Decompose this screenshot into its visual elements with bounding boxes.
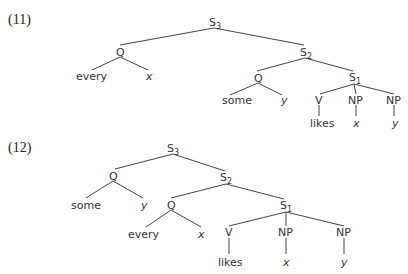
edge-q-y bbox=[113, 181, 143, 198]
leaf-every: every bbox=[76, 70, 108, 83]
example-label: (11) bbox=[8, 12, 31, 28]
node-np: NP bbox=[278, 226, 293, 239]
edge-s1-v bbox=[229, 212, 286, 226]
node-q: Q bbox=[167, 199, 176, 212]
edge-s1-v bbox=[320, 84, 354, 94]
edge-q-every bbox=[146, 210, 171, 227]
edge-s3-s2 bbox=[214, 28, 304, 45]
edge-s1-np2 bbox=[286, 212, 344, 226]
leaf-x: x bbox=[145, 70, 153, 83]
node-s1: S1 bbox=[280, 199, 292, 214]
example-label: (12) bbox=[8, 140, 32, 156]
edge-s2-q bbox=[171, 184, 226, 198]
leaf-x: x bbox=[197, 228, 205, 241]
edge-q-x bbox=[171, 210, 201, 227]
node-np: NP bbox=[336, 226, 351, 239]
edge-s3-q bbox=[120, 28, 214, 45]
leaf-y: y bbox=[340, 256, 348, 269]
node-s2: S2 bbox=[300, 46, 312, 61]
edge-s2-s1 bbox=[226, 184, 284, 199]
leaf-some: some bbox=[71, 199, 101, 212]
node-q: Q bbox=[116, 46, 125, 59]
leaf-some: some bbox=[222, 94, 252, 107]
node-v: V bbox=[315, 94, 323, 107]
edge-s3-q bbox=[115, 154, 173, 169]
node-np: NP bbox=[386, 94, 401, 107]
edge-q-some bbox=[86, 181, 113, 198]
leaf-x: x bbox=[282, 256, 290, 269]
leaf-y: y bbox=[391, 117, 399, 130]
edge-s2-q bbox=[257, 58, 305, 71]
node-s1: S1 bbox=[349, 71, 361, 86]
node-q: Q bbox=[254, 72, 263, 85]
node-v: V bbox=[225, 226, 233, 239]
edge-s2-s1 bbox=[305, 58, 353, 71]
node-s2: S2 bbox=[220, 171, 232, 186]
leaf-every: every bbox=[128, 228, 160, 241]
leaf-y: y bbox=[280, 94, 288, 107]
leaf-likes: likes bbox=[310, 117, 335, 130]
leaf-y: y bbox=[140, 199, 148, 212]
node-s3: S3 bbox=[209, 16, 221, 31]
leaf-x: x bbox=[352, 117, 360, 130]
leaf-likes: likes bbox=[218, 256, 243, 269]
node-s3: S3 bbox=[167, 142, 179, 157]
edge-s3-s2 bbox=[173, 154, 225, 171]
node-np: NP bbox=[348, 94, 363, 107]
tree-diagrams: (11) S3 Q every x S2 Q some y S1 V NP NP… bbox=[0, 0, 408, 274]
tree-12: (12) S3 Q some y S2 Q every x S1 V NP NP… bbox=[8, 140, 351, 269]
node-q: Q bbox=[109, 170, 118, 183]
tree-11: (11) S3 Q every x S2 Q some y S1 V NP NP… bbox=[8, 12, 401, 130]
